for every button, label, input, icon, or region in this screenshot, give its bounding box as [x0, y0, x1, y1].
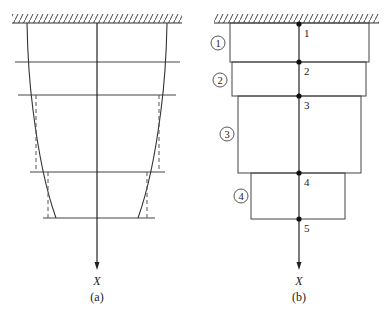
svg-text:4: 4: [238, 191, 244, 202]
fixed-support-a: [12, 14, 182, 23]
node-4: [296, 170, 301, 175]
arrow-down-icon: [95, 262, 100, 270]
node-label-2: 2: [304, 65, 310, 77]
caption-a: (a): [90, 290, 103, 304]
element-label-4: 4: [234, 189, 248, 203]
svg-text:3: 3: [224, 129, 229, 140]
node-label-5: 5: [304, 222, 310, 234]
panel-b: 1 2 3 4 5 1 2 3 4 X (b): [211, 14, 379, 304]
element-label-1: 1: [211, 36, 225, 50]
element-label-3: 3: [220, 127, 234, 141]
axis-label-b: X: [294, 274, 303, 288]
diagram-canvas: X (a) 1 2 3: [0, 0, 390, 313]
svg-text:1: 1: [215, 38, 220, 49]
axis-label-a: X: [92, 274, 101, 288]
fixed-support-b: [214, 14, 379, 23]
node-label-4: 4: [304, 176, 310, 188]
node-3: [296, 93, 301, 98]
node-label-1: 1: [304, 27, 310, 39]
element-4: [251, 173, 345, 219]
node-1: [296, 21, 301, 26]
arrow-down-icon: [297, 262, 302, 270]
panel-a: X (a): [12, 14, 182, 304]
node-label-3: 3: [304, 99, 310, 111]
node-5: [296, 216, 301, 221]
x-axis-a: [95, 23, 100, 270]
element-label-2: 2: [213, 73, 227, 87]
caption-b: (b): [292, 290, 306, 304]
node-2: [296, 59, 301, 64]
svg-text:2: 2: [217, 75, 222, 86]
